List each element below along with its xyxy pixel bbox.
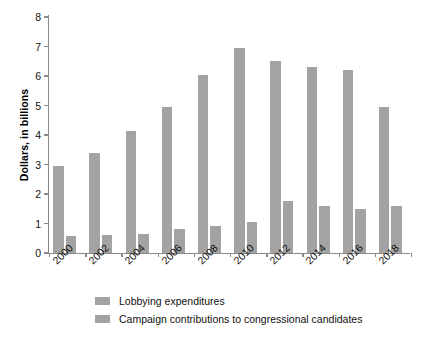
bar	[379, 107, 390, 253]
x-tick-mark	[411, 253, 412, 257]
y-axis-line	[48, 15, 49, 254]
bar	[162, 107, 173, 253]
bar-chart: Dollars, in billions 012345678 200020022…	[0, 0, 432, 338]
bar	[126, 131, 137, 253]
y-tick-label: 1	[35, 216, 41, 232]
y-tick-label: 5	[35, 98, 41, 114]
y-tick-label: 4	[35, 127, 41, 143]
bar	[234, 48, 245, 253]
y-tick-mark	[44, 16, 48, 17]
legend-label: Lobbying expenditures	[119, 295, 225, 307]
y-tick-mark	[44, 252, 48, 253]
y-tick-mark	[44, 46, 48, 47]
bar	[307, 67, 318, 253]
y-tick-mark	[44, 105, 48, 106]
bar	[270, 61, 281, 253]
y-tick-label: 6	[35, 68, 41, 84]
y-tick-label: 0	[35, 245, 41, 261]
y-tick-label: 8	[35, 9, 41, 25]
legend-item: Lobbying expenditures	[95, 293, 362, 309]
bar	[89, 153, 100, 253]
chart-legend: Lobbying expendituresCampaign contributi…	[95, 293, 362, 329]
y-tick-label: 7	[35, 39, 41, 55]
y-tick-mark	[44, 75, 48, 76]
bar	[198, 75, 209, 253]
y-tick-mark	[44, 223, 48, 224]
legend-item: Campaign contributions to congressional …	[95, 311, 362, 327]
y-tick-mark	[44, 134, 48, 135]
legend-label: Campaign contributions to congressional …	[119, 313, 362, 325]
x-tick-mark	[49, 253, 50, 257]
legend-swatch	[95, 297, 110, 305]
y-tick-mark	[44, 193, 48, 194]
bar	[53, 166, 64, 253]
y-tick-label: 2	[35, 186, 41, 202]
legend-swatch	[95, 315, 110, 323]
bar	[343, 70, 354, 253]
y-tick-label: 3	[35, 157, 41, 173]
y-axis-title: Dollars, in billions	[18, 70, 30, 200]
y-tick-mark	[44, 164, 48, 165]
